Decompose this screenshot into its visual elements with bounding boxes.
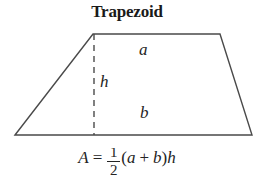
formula-area-symbol: A — [78, 148, 88, 168]
label-height-h: h — [100, 72, 109, 92]
formula-term-a: a — [127, 148, 136, 168]
fraction-denominator: 2 — [108, 163, 120, 177]
label-side-a: a — [139, 40, 148, 60]
formula-term-h: h — [167, 148, 176, 168]
formula-term-b: b — [153, 148, 162, 168]
formula-equals: = — [93, 148, 103, 168]
trapezoid-outline — [15, 34, 252, 135]
area-formula: A = 1 2 ( a + b ) h — [0, 148, 254, 177]
fraction-numerator: 1 — [108, 148, 120, 160]
trapezoid-figure: Trapezoid a b h A = 1 2 ( a + b ) h — [0, 0, 254, 177]
formula-plus: + — [139, 148, 149, 168]
formula-one-half: 1 2 — [107, 148, 120, 177]
label-side-b: b — [140, 103, 149, 123]
